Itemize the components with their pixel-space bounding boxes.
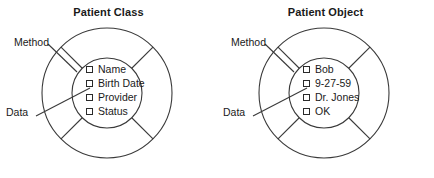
checkbox-icon[interactable] — [86, 66, 93, 73]
attribute-row: Bob — [303, 62, 381, 76]
spoke-lower-right — [349, 118, 370, 139]
attribute-row: OK — [303, 104, 381, 118]
attribute-label: Provider — [98, 91, 137, 103]
label-method: Method — [231, 36, 266, 48]
checkbox-icon[interactable] — [86, 108, 93, 115]
attribute-row: 9-27-59 — [303, 76, 381, 90]
label-data: Data — [6, 106, 28, 118]
attribute-label: Bob — [315, 63, 334, 75]
attribute-row: Name — [86, 62, 164, 76]
label-data: Data — [223, 106, 245, 118]
diagram-patient-class: Patient Class Method Data Name — [0, 0, 217, 178]
attribute-list: Bob 9-27-59 Dr. Jones OK — [303, 62, 381, 118]
attribute-label: Name — [98, 63, 126, 75]
attribute-label: Dr. Jones — [315, 91, 359, 103]
attribute-label: Birth Date — [98, 77, 145, 89]
spoke-lower-left — [61, 118, 82, 139]
figure-canvas: Patient Class Method Data Name — [0, 0, 434, 178]
attribute-label: Status — [98, 105, 128, 117]
attribute-row: Dr. Jones — [303, 90, 381, 104]
spoke-upper-left — [61, 47, 82, 68]
checkbox-icon[interactable] — [303, 108, 310, 115]
checkbox-icon[interactable] — [86, 94, 93, 101]
leader-line-data — [36, 88, 90, 116]
leader-line-data — [253, 88, 307, 116]
diagram-patient-object: Patient Object Method Data Bob 9 — [217, 0, 434, 178]
checkbox-icon[interactable] — [303, 94, 310, 101]
checkbox-icon[interactable] — [303, 80, 310, 87]
checkbox-icon[interactable] — [86, 80, 93, 87]
attribute-row: Status — [86, 104, 164, 118]
attribute-list: Name Birth Date Provider Status — [86, 62, 164, 118]
checkbox-icon[interactable] — [303, 66, 310, 73]
spoke-lower-left — [278, 118, 299, 139]
attribute-row: Provider — [86, 90, 164, 104]
label-method: Method — [14, 36, 49, 48]
attribute-label: OK — [315, 105, 330, 117]
spoke-upper-left — [278, 47, 299, 68]
spoke-lower-right — [132, 118, 153, 139]
attribute-row: Birth Date — [86, 76, 164, 90]
attribute-label: 9-27-59 — [315, 77, 351, 89]
